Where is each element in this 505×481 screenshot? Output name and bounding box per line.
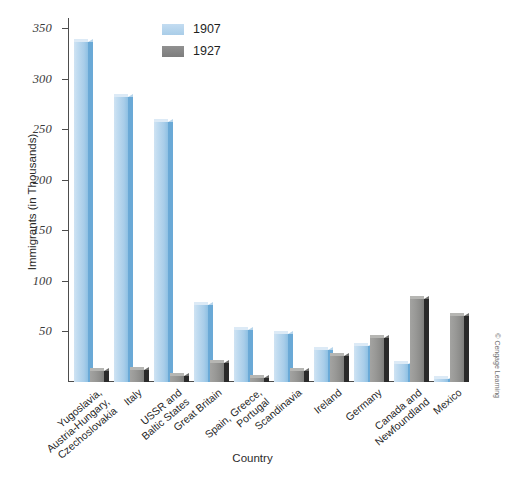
bar-top-bevel <box>128 94 133 97</box>
bar-1927 <box>330 356 344 382</box>
bar-1907 <box>314 350 328 382</box>
bar-face <box>394 364 408 382</box>
bar-top <box>394 361 408 364</box>
bar-face <box>114 97 128 382</box>
bar-top <box>314 347 328 350</box>
legend-label: 1927 <box>193 44 221 58</box>
bar-group <box>228 18 268 382</box>
y-axis-tick-label: 300 <box>6 71 52 86</box>
bar-1927 <box>250 378 264 382</box>
bar-top <box>130 367 144 370</box>
bar-top-bevel <box>88 39 93 42</box>
x-axis-title: Country <box>0 452 505 464</box>
bar-1907 <box>194 305 208 382</box>
bar-1927 <box>90 371 104 382</box>
y-axis-tick-label: 50 <box>6 324 52 339</box>
bar-face <box>274 334 288 382</box>
bar-top <box>450 313 464 316</box>
bar-side <box>88 42 93 382</box>
bar-face <box>314 350 328 382</box>
bar-face <box>130 370 144 382</box>
bar-top <box>250 375 264 378</box>
bar-face <box>210 363 224 382</box>
bar-1927 <box>370 338 384 382</box>
bar-top-bevel <box>168 119 173 122</box>
bar-top-bevel <box>288 331 293 334</box>
bar-group <box>268 18 308 382</box>
plot-area <box>68 18 468 382</box>
bar-group <box>428 18 468 382</box>
bar-face <box>370 338 384 382</box>
bar-face <box>234 330 248 382</box>
bar-group <box>308 18 348 382</box>
bar-group <box>188 18 228 382</box>
bar-1907 <box>154 122 168 382</box>
legend-item-1907: 1907 <box>162 20 221 38</box>
bar-1907 <box>114 97 128 382</box>
bar-top <box>274 331 288 334</box>
light-blue-swatch-icon <box>162 24 184 35</box>
bar-face <box>154 122 168 382</box>
bar-face <box>410 299 424 382</box>
bar-face <box>450 316 464 382</box>
bar-face <box>434 379 448 382</box>
bar-top <box>114 94 128 97</box>
bar-1927 <box>410 299 424 382</box>
bar-1907 <box>354 346 368 382</box>
bar-top-bevel <box>208 302 213 305</box>
bar-1927 <box>210 363 224 382</box>
bar-face <box>74 42 88 382</box>
bar-side <box>464 316 469 382</box>
bar-top-bevel <box>464 313 469 316</box>
bar-face <box>250 378 264 382</box>
bar-top <box>154 119 168 122</box>
chart-legend: 1907 1927 <box>162 20 221 64</box>
gray-swatch-icon <box>162 46 184 57</box>
bar-face <box>290 371 304 382</box>
y-axis-title: Immigrants (in Thousands) <box>26 97 38 307</box>
bar-top <box>410 296 424 299</box>
bar-face <box>194 305 208 382</box>
bar-face <box>90 371 104 382</box>
bar-face <box>330 356 344 382</box>
immigration-bar-chart: 50100150200250300350 Immigrants (in Thou… <box>0 0 505 481</box>
bar-top <box>330 353 344 356</box>
bar-top <box>234 327 248 330</box>
bar-top <box>290 368 304 371</box>
bar-1927 <box>450 316 464 382</box>
copyright-credit: © Cengage Learning <box>494 333 501 398</box>
bar-top <box>354 343 368 346</box>
bar-top <box>210 360 224 363</box>
bar-1907 <box>394 364 408 382</box>
bar-1927 <box>290 371 304 382</box>
bar-side <box>168 122 173 382</box>
bar-top <box>90 368 104 371</box>
bar-1907 <box>234 330 248 382</box>
bar-group <box>68 18 108 382</box>
legend-item-1927: 1927 <box>162 42 221 60</box>
bar-1907 <box>434 379 448 382</box>
bar-top <box>370 335 384 338</box>
bar-side <box>128 97 133 382</box>
legend-label: 1907 <box>193 22 221 36</box>
bar-top-bevel <box>248 327 253 330</box>
bar-top <box>434 376 448 379</box>
y-axis-tick-label: 350 <box>6 21 52 36</box>
bar-group <box>148 18 188 382</box>
bar-top <box>170 373 184 376</box>
bar-group <box>388 18 428 382</box>
bar-top <box>74 39 88 42</box>
bar-1927 <box>130 370 144 382</box>
bar-top-bevel <box>328 347 333 350</box>
bar-top <box>194 302 208 305</box>
bar-face <box>354 346 368 382</box>
bar-group <box>348 18 388 382</box>
bar-1907 <box>74 42 88 382</box>
bar-1927 <box>170 376 184 382</box>
bar-1907 <box>274 334 288 382</box>
bar-group <box>108 18 148 382</box>
bar-face <box>170 376 184 382</box>
